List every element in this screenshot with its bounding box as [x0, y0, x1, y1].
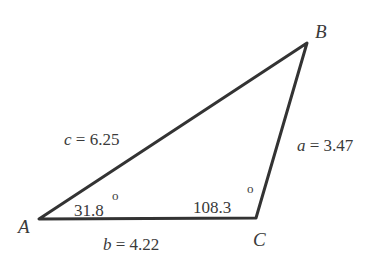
- side-c-value: 6.25: [90, 130, 120, 149]
- degree-symbol-c: o: [247, 181, 254, 196]
- side-b-value: 4.22: [130, 235, 160, 254]
- vertex-label-b: B: [315, 21, 327, 42]
- angle-label-a: 31.8: [74, 201, 104, 220]
- side-label-c: c = 6.25: [64, 130, 119, 149]
- vertex-label-a: A: [16, 216, 30, 237]
- side-a-var: a: [297, 136, 306, 155]
- degree-symbol-a: o: [112, 188, 119, 203]
- side-c-eq: =: [72, 130, 90, 149]
- side-b-eq: =: [112, 235, 130, 254]
- side-b-var: b: [103, 235, 112, 254]
- triangle-diagram: A B C c = 6.25 a = 3.47 b = 4.22 31.8 o …: [0, 0, 377, 277]
- side-a-eq: =: [306, 136, 324, 155]
- angle-label-c: 108.3: [193, 198, 231, 217]
- side-label-a: a = 3.47: [297, 136, 354, 155]
- vertex-label-c: C: [253, 229, 266, 250]
- side-a-value: 3.47: [324, 136, 354, 155]
- side-label-b: b = 4.22: [103, 235, 159, 254]
